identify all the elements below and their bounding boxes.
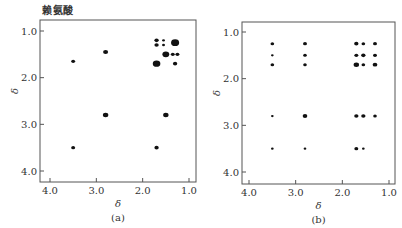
y-tick-label: 2.0 <box>21 72 37 83</box>
cross-peak <box>303 54 307 57</box>
cross-peak <box>71 146 75 149</box>
cross-peak <box>154 39 158 43</box>
cross-peak <box>373 54 377 57</box>
cross-peak <box>103 50 108 54</box>
cross-peak <box>362 63 366 66</box>
cross-peak <box>361 114 365 118</box>
y-axis-label: δ <box>211 90 222 96</box>
cross-peak <box>271 54 274 56</box>
cross-peak <box>154 43 158 47</box>
y-tick-label: 3.0 <box>21 119 37 130</box>
cross-peak <box>303 114 308 118</box>
cross-peak <box>271 63 275 66</box>
cross-peak <box>354 62 359 67</box>
y-tick-label: 4.0 <box>21 166 37 177</box>
x-axis-label: δ <box>115 198 121 209</box>
panel-a-plot: 4.03.02.01.01.02.03.04.0δδ(a) <box>9 20 197 223</box>
x-tick-label: 2.0 <box>135 185 151 196</box>
x-tick-label: 4.0 <box>42 185 58 196</box>
cross-peak <box>304 148 307 150</box>
cross-peak <box>173 62 177 66</box>
cross-peak <box>163 113 168 118</box>
cross-peak <box>362 42 366 45</box>
x-axis-label: δ <box>315 200 321 211</box>
panel-b-plot: 4.03.02.01.01.02.03.04.0δδ(b) <box>211 22 397 225</box>
cross-peak <box>373 115 377 118</box>
nmr-cosy-figure: 4.03.02.01.01.02.03.04.0δδ(a) 4.03.02.01… <box>0 0 402 228</box>
cross-peak <box>373 63 378 67</box>
x-tick-label: 3.0 <box>88 185 104 196</box>
cross-peak <box>175 53 179 56</box>
cross-peak <box>361 54 365 58</box>
panel-label: (b) <box>311 214 325 225</box>
cross-peak <box>103 113 108 118</box>
cross-peak <box>354 147 358 150</box>
x-tick-label: 1.0 <box>181 185 197 196</box>
cross-peak <box>354 54 358 57</box>
y-tick-label: 4.0 <box>223 167 239 178</box>
cross-peak <box>354 114 358 118</box>
x-tick-label: 3.0 <box>288 187 304 198</box>
cross-peak <box>271 148 274 150</box>
cross-peak <box>362 148 365 150</box>
cross-peak <box>154 146 158 150</box>
panel-label: (a) <box>111 212 125 223</box>
cross-peak <box>71 60 75 63</box>
x-tick-label: 4.0 <box>241 187 257 198</box>
plot-frame <box>242 22 395 184</box>
cross-peak <box>271 42 275 45</box>
cross-peak <box>303 63 307 66</box>
cross-peak <box>153 61 161 67</box>
cross-peak <box>171 53 175 56</box>
cross-peak <box>162 39 165 41</box>
cross-peak <box>373 42 377 45</box>
cross-peak <box>271 115 274 117</box>
y-tick-label: 1.0 <box>21 26 37 37</box>
x-tick-label: 2.0 <box>334 187 350 198</box>
cross-peak <box>354 42 358 46</box>
x-tick-label: 1.0 <box>381 187 397 198</box>
y-tick-label: 3.0 <box>223 120 239 131</box>
cross-peak <box>303 42 307 45</box>
cross-peak <box>162 44 165 46</box>
cross-peak <box>162 51 169 57</box>
cross-peak <box>171 39 179 46</box>
y-axis-label: δ <box>9 88 20 94</box>
y-tick-label: 1.0 <box>223 27 239 38</box>
y-tick-label: 2.0 <box>223 73 239 84</box>
